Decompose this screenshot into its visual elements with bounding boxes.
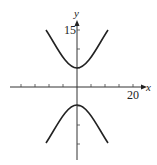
x-tick-label: 20 [127, 88, 139, 102]
y-axis-label: y [73, 7, 79, 19]
x-axis-label: x [145, 81, 151, 93]
y-tick-label: 15 [64, 23, 76, 37]
hyperbola-chart: y 15 20 x [0, 0, 157, 165]
